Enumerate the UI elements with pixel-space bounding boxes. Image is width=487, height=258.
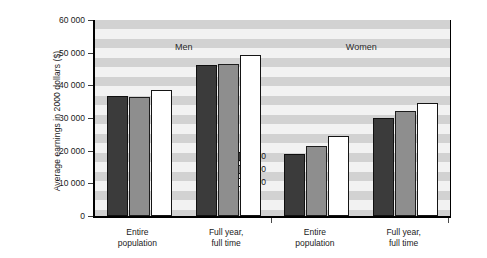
x-axis-tick-mark <box>271 218 272 223</box>
y-axis-ticks: 010 00020 00030 00040 00050 00060 000 <box>0 0 93 258</box>
bar <box>196 65 217 216</box>
x-axis-tick-label: Full year,full time <box>386 227 421 249</box>
x-axis-tick-label: Entirepopulation <box>295 227 334 249</box>
y-axis-tick-label: 60 000 <box>59 14 85 26</box>
bar <box>151 90 172 216</box>
y-axis-tick-label: 30 000 <box>59 112 85 124</box>
bar <box>284 154 305 216</box>
x-axis-tick-mark <box>448 218 449 223</box>
x-axis-tick-label: Entirepopulation <box>118 227 157 249</box>
y-axis-tick-label: 10 000 <box>59 177 85 189</box>
x-axis-tick-label: Full year,full time <box>209 227 244 249</box>
bar <box>240 55 261 216</box>
y-axis-tick-label: 20 000 <box>59 145 85 157</box>
group-heading: Women <box>346 42 377 52</box>
group-heading: Men <box>175 42 193 52</box>
bar <box>218 64 239 216</box>
bar <box>328 136 349 216</box>
plot-area: 1980 1990 2000 MenWomen <box>93 20 451 218</box>
bar <box>129 97 150 216</box>
bar <box>373 118 394 216</box>
bar-chart: Average earnings in 2000 dollars ($) 010… <box>0 0 487 258</box>
x-axis: EntirepopulationFull year,full timeEntir… <box>93 218 450 258</box>
bar <box>306 146 327 216</box>
bar <box>107 96 128 216</box>
bar <box>417 103 438 216</box>
bar <box>395 111 416 216</box>
y-axis-tick-label: 0 <box>80 210 85 222</box>
y-axis-tick-label: 40 000 <box>59 79 85 91</box>
y-axis-tick-label: 50 000 <box>59 47 85 59</box>
